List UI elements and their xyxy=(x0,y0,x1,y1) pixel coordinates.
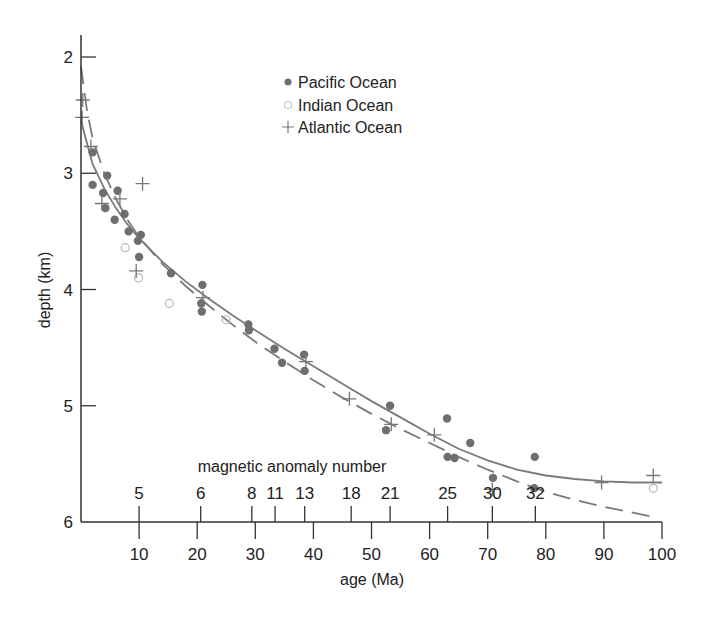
pacific-point xyxy=(382,426,390,434)
pacific-point xyxy=(489,474,497,482)
y-tick-label: 2 xyxy=(64,48,73,67)
atlantic-point xyxy=(427,428,441,442)
anomaly-tick-label: 25 xyxy=(438,484,457,503)
anomaly-tick-label: 30 xyxy=(483,484,502,503)
pacific-point xyxy=(167,269,175,277)
anomaly-tick-label: 13 xyxy=(295,484,314,503)
atlantic-point xyxy=(136,177,150,191)
pacific-point xyxy=(278,359,286,367)
x-axis-title: age (Ma) xyxy=(340,571,404,588)
pacific-point xyxy=(137,231,145,239)
pacific-point xyxy=(110,216,118,224)
y-tick-label: 4 xyxy=(64,281,73,300)
anomaly-tick-label: 32 xyxy=(526,484,545,503)
pacific-point xyxy=(99,189,107,197)
y-tick-label: 3 xyxy=(64,164,73,183)
anomaly-tick-label: 11 xyxy=(266,484,284,503)
pacific-point xyxy=(197,299,205,307)
pacific-point xyxy=(300,350,308,358)
pacific-point xyxy=(124,227,132,235)
anomaly-tick-label: 5 xyxy=(134,484,143,503)
indian-point xyxy=(165,299,173,307)
pacific-point xyxy=(198,281,206,289)
x-tick-label: 80 xyxy=(536,545,555,564)
chart: 2345610203040506070809010056811131821253… xyxy=(0,0,707,617)
pacific-point xyxy=(120,210,128,218)
y-tick-label: 6 xyxy=(64,513,73,532)
pacific-point xyxy=(466,439,474,447)
axes: 2345610203040506070809010056811131821253… xyxy=(64,35,677,564)
atlantic-point xyxy=(646,469,660,483)
pacific-marker-icon xyxy=(285,79,292,86)
atlantic-point xyxy=(75,110,89,124)
indian-marker-icon xyxy=(285,102,292,109)
atlantic-marker-icon xyxy=(282,121,294,133)
pacific-point xyxy=(198,307,206,315)
atlantic-point xyxy=(595,475,609,489)
pacific-point xyxy=(443,414,451,422)
atlantic-point xyxy=(129,264,143,278)
anomaly-tick-label: 18 xyxy=(342,484,361,503)
pacific-point xyxy=(300,367,308,375)
pacific-point xyxy=(135,253,143,261)
anomaly-tick-label: 6 xyxy=(196,484,205,503)
pacific-point xyxy=(386,402,394,410)
x-tick-label: 60 xyxy=(420,545,439,564)
pacific-point xyxy=(103,171,111,179)
pacific-point xyxy=(450,454,458,462)
pacific-point xyxy=(88,148,96,156)
pacific-point xyxy=(270,345,278,353)
anomaly-axis-title: magnetic anomaly number xyxy=(198,458,387,475)
data-points xyxy=(75,93,660,496)
x-tick-label: 70 xyxy=(478,545,497,564)
anomaly-tick-label: 8 xyxy=(247,484,256,503)
x-tick-label: 90 xyxy=(594,545,613,564)
x-tick-label: 50 xyxy=(362,545,381,564)
y-tick-label: 5 xyxy=(64,397,73,416)
indian-point xyxy=(121,244,129,252)
pacific-point xyxy=(531,453,539,461)
pacific-point xyxy=(88,181,96,189)
legend-atlantic-label: Atlantic Ocean xyxy=(298,119,402,136)
anomaly-tick-label: 21 xyxy=(381,484,400,503)
atlantic-point xyxy=(76,93,90,107)
x-tick-label: 30 xyxy=(246,545,265,564)
legend: Pacific Ocean Indian Ocean Atlantic Ocea… xyxy=(282,74,402,136)
x-tick-label: 100 xyxy=(648,545,676,564)
indian-point xyxy=(649,484,657,492)
x-tick-label: 10 xyxy=(130,545,149,564)
legend-indian-label: Indian Ocean xyxy=(298,97,393,114)
pacific-point xyxy=(245,326,253,334)
x-tick-label: 20 xyxy=(188,545,207,564)
atlantic-point xyxy=(342,392,356,406)
solid-fit-curve xyxy=(81,121,662,483)
x-tick-label: 40 xyxy=(304,545,323,564)
y-axis-title: depth (km) xyxy=(36,252,53,328)
legend-pacific-label: Pacific Ocean xyxy=(298,74,397,91)
